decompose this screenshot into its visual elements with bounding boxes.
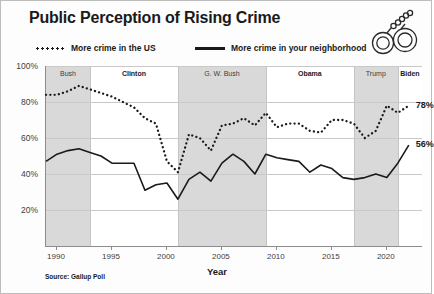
handcuffs-icon <box>365 7 423 59</box>
x-axis-tick-label: 2015 <box>311 252 351 261</box>
x-axis-tick-mark <box>221 246 222 250</box>
legend-label-us: More crime in the US <box>71 43 156 53</box>
x-axis-tick-mark <box>56 246 57 250</box>
x-axis-tick-label: 1995 <box>91 252 131 261</box>
x-axis-tick-mark <box>276 246 277 250</box>
chart-title: Public Perception of Rising Crime <box>29 9 280 27</box>
x-axis-tick-label: 1990 <box>36 252 76 261</box>
x-axis-labels: 1990199520002005201020152020 <box>45 66 423 266</box>
y-axis-tick-label: 40% <box>21 169 38 179</box>
legend-item-us: More crime in the US <box>35 41 156 55</box>
y-axis-tick-label: 20% <box>21 205 38 215</box>
x-axis-tick-label: 2005 <box>201 252 241 261</box>
y-axis-tick-label: 80% <box>21 97 38 107</box>
y-axis-tick-label: 60% <box>21 133 38 143</box>
y-axis-tick-label: 100% <box>16 61 38 71</box>
x-axis-tick-mark <box>111 246 112 250</box>
end-label-us: 78% <box>416 100 434 110</box>
solid-line-swatch-icon <box>195 47 225 50</box>
y-axis-labels: 20%40%60%80%100% <box>1 66 43 248</box>
legend-item-neighborhood: More crime in your neighborhood <box>195 41 367 55</box>
x-axis-tick-mark <box>386 246 387 250</box>
end-label-neighborhood: 56% <box>416 139 434 149</box>
x-axis-tick-mark <box>166 246 167 250</box>
x-axis-tick-mark <box>331 246 332 250</box>
x-axis-tick-label: 2000 <box>146 252 186 261</box>
chart-legend: More crime in the US More crime in your … <box>35 41 365 55</box>
legend-label-neighborhood: More crime in your neighborhood <box>231 43 367 53</box>
dotted-line-swatch-icon <box>35 47 65 50</box>
x-axis-tick-label: 2010 <box>256 252 296 261</box>
x-axis-tick-label: 2020 <box>366 252 406 261</box>
source-note: Source: Gallup Poll <box>45 273 105 280</box>
